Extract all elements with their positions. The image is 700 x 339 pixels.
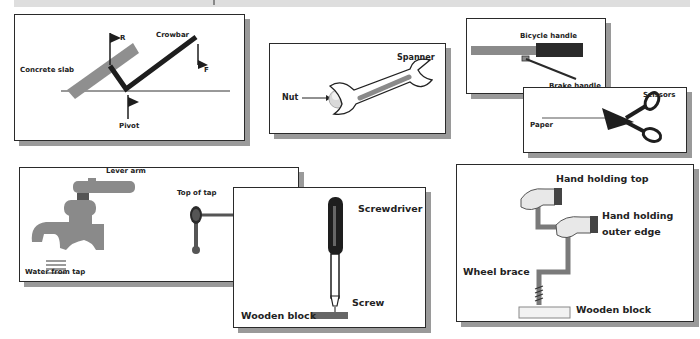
label-hand-holding-outer-edge-line2: outer edge: [602, 226, 661, 237]
spanner-diagram-card: Spanner Nut: [269, 43, 446, 134]
screwdriver-diagram-card: Screwdriver Screw Wooden block: [233, 187, 426, 328]
label-hand-holding-outer-edge-line1: Hand holding: [602, 210, 673, 221]
label-screw: Screw: [352, 297, 384, 308]
label-r: R: [120, 34, 125, 42]
top-bar: [14, 0, 690, 7]
top-bar-mark: [213, 0, 215, 5]
label-wooden-block-wheel-brace: Wooden block: [576, 304, 651, 315]
label-screwdriver: Screwdriver: [358, 203, 422, 214]
crowbar-diagram-card: Concrete slab Crowbar R F Pivot: [14, 14, 245, 141]
label-pivot: Pivot: [119, 122, 139, 130]
hand-top-icon: [521, 188, 562, 210]
label-bicycle-handle: Bicycle handle: [520, 32, 577, 40]
label-concrete-slab: Concrete slab: [20, 66, 74, 74]
label-crowbar: Crowbar: [156, 31, 189, 39]
label-paper: Paper: [530, 121, 553, 129]
label-spanner: Spanner: [397, 53, 435, 62]
wheel-brace-illustration: [457, 165, 695, 323]
label-water-from-tap: Water from tap: [25, 268, 85, 276]
label-scissors: Scissors: [643, 91, 675, 99]
label-wooden-block-screwdriver: Wooden block: [241, 310, 316, 321]
label-nut: Nut: [282, 93, 298, 102]
wheel-brace-diagram-card: Hand holding top Hand holding outer edge…: [456, 164, 694, 322]
label-hand-holding-top: Hand holding top: [556, 173, 649, 184]
bicycle-handle-diagram-card: Bicycle handle Brake handle: [466, 18, 606, 94]
hand-outer-edge-icon: [556, 216, 598, 238]
label-lever-arm-tap: Lever arm: [106, 167, 146, 175]
label-top-of-tap: Top of tap: [177, 189, 216, 197]
label-wheel-brace: Wheel brace: [463, 266, 530, 277]
scissors-diagram-card: Scissors Paper: [523, 87, 687, 153]
label-f: F: [204, 66, 209, 74]
